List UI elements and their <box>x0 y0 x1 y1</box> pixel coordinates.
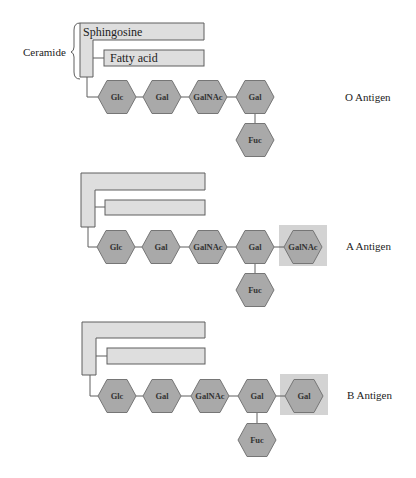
a-antigen-label: A Antigen <box>346 240 391 252</box>
svg-text:Gal: Gal <box>297 391 311 401</box>
residue-galnac: GalNAc <box>189 81 227 114</box>
svg-text:Gal: Gal <box>154 242 168 252</box>
svg-text:GalNAc: GalNAc <box>193 92 223 102</box>
fatty-acid-label: Fatty acid <box>110 51 158 65</box>
svg-text:Glc: Glc <box>111 391 124 401</box>
ceramide-glycan-link <box>88 227 97 247</box>
residue-glc: Glc <box>98 81 136 114</box>
residue-fuc: Fuc <box>236 274 274 307</box>
ceramide-glycan-link <box>90 375 98 396</box>
residue-gal: Gal <box>143 380 181 413</box>
svg-text:Gal: Gal <box>248 92 262 102</box>
svg-text:Glc: Glc <box>110 242 123 252</box>
residue-gal-branchpoint: Gal <box>238 380 276 413</box>
b-antigen-label: B Antigen <box>347 389 392 401</box>
sphingosine-label: Sphingosine <box>83 25 142 39</box>
svg-text:Fuc: Fuc <box>248 285 262 295</box>
ceramide-glycan-link <box>87 77 98 97</box>
svg-text:GalNAc: GalNAc <box>195 391 225 401</box>
o-antigen-structure: Ceramide Sphingosine Fatty acid Glc Gal … <box>23 23 391 157</box>
fatty-acid-bar <box>105 200 205 215</box>
residue-gal: Gal <box>143 81 181 114</box>
residue-gal-branchpoint: Gal <box>236 231 274 264</box>
svg-text:Fuc: Fuc <box>250 435 264 445</box>
b-antigen-structure: Glc Gal GalNAc Gal Gal Fuc B Antigen <box>82 322 392 457</box>
svg-text:Gal: Gal <box>250 391 264 401</box>
svg-text:Glc: Glc <box>111 92 124 102</box>
blood-group-antigen-diagram: Ceramide Sphingosine Fatty acid Glc Gal … <box>0 0 416 478</box>
svg-text:GalNAc: GalNAc <box>288 242 318 252</box>
residue-gal-branchpoint: Gal <box>236 81 274 114</box>
residue-galnac: GalNAc <box>189 231 227 264</box>
residue-fuc: Fuc <box>238 424 276 457</box>
svg-text:Fuc: Fuc <box>248 135 262 145</box>
residue-glc: Glc <box>98 380 136 413</box>
fatty-acid-bar <box>107 348 205 364</box>
svg-text:Gal: Gal <box>248 242 262 252</box>
residue-glc: Glc <box>97 231 135 264</box>
residue-galnac: GalNAc <box>191 380 229 413</box>
ceramide-label: Ceramide <box>23 46 66 58</box>
svg-text:Gal: Gal <box>155 391 169 401</box>
ceramide-brace <box>71 23 80 79</box>
svg-text:GalNAc: GalNAc <box>193 242 223 252</box>
residue-gal: Gal <box>142 231 180 264</box>
o-antigen-label: O Antigen <box>345 91 391 103</box>
residue-fuc: Fuc <box>236 124 274 157</box>
a-antigen-structure: Glc Gal GalNAc Gal GalNAc Fuc A Antigen <box>81 173 391 307</box>
svg-text:Gal: Gal <box>155 92 169 102</box>
